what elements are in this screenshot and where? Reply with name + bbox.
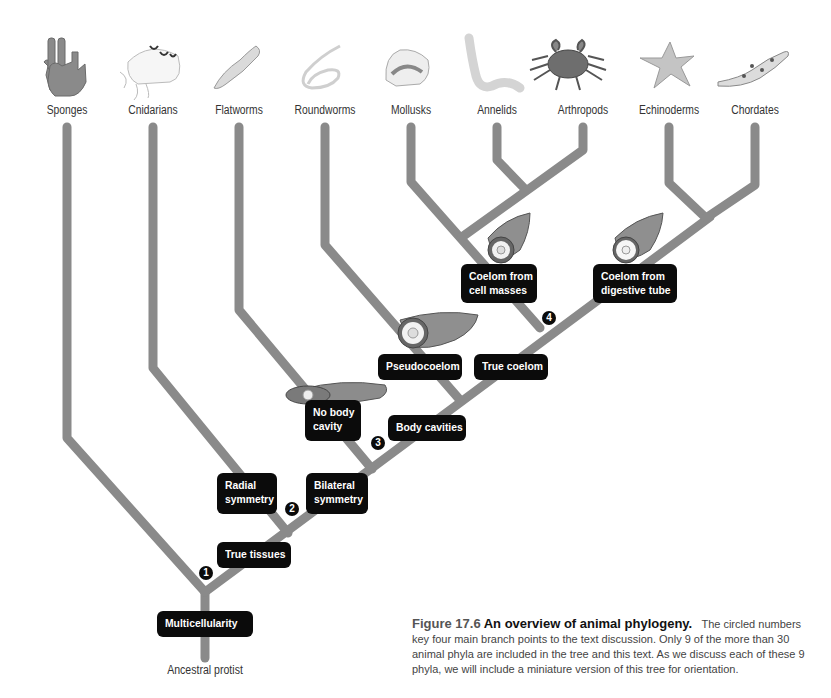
phylum-label-arthropods: Arthropods — [558, 103, 608, 117]
coelom-cell-masses-icon — [488, 213, 530, 263]
trait-pseudocoelom: Pseudocoelom — [378, 354, 462, 380]
phylum-label-chordates: Chordates — [731, 103, 779, 117]
jellyfish-icon — [120, 46, 180, 100]
root-label: Ancestral protist — [167, 663, 243, 677]
sponges-branch — [67, 127, 205, 592]
trait-text-line: Coelom from — [469, 269, 533, 283]
trait-true-tissues: True tissues — [217, 542, 291, 568]
trait-no-body-cavity: No body cavity — [305, 400, 361, 441]
tree-branches — [67, 127, 755, 658]
trait-text: True coelom — [482, 359, 543, 373]
trait-text-line: No body — [313, 405, 354, 419]
trait-text-line: cell masses — [469, 283, 527, 297]
phylum-label-annelids: Annelids — [477, 103, 517, 117]
phylum-label-mollusks: Mollusks — [391, 103, 431, 117]
phylum-label-roundworms: Roundworms — [295, 103, 356, 117]
pseudocoelom-icon — [398, 312, 478, 348]
trait-text-line: Radial — [225, 478, 256, 492]
chordates-branch — [706, 127, 755, 218]
trait-text: Pseudocoelom — [386, 359, 460, 373]
phylum-label-sponges: Sponges — [47, 103, 88, 117]
trait-text: True tissues — [225, 547, 285, 561]
crab-icon — [530, 40, 606, 90]
shell-icon — [386, 50, 429, 86]
trait-text-line: Coelom from — [601, 269, 665, 283]
figure-title: An overview of animal phylogeny. — [484, 616, 693, 631]
trait-text: Multicellularity — [165, 616, 237, 630]
phylum-label-cnidarians: Cnidarians — [128, 103, 177, 117]
trait-text-line: symmetry — [314, 492, 363, 506]
figure-number: Figure 17.6 — [412, 616, 481, 631]
branch-point-1: 1 — [199, 566, 213, 580]
trait-body-cavities: Body cavities — [388, 415, 466, 441]
flatworm-icon — [214, 46, 260, 89]
trait-text: Body cavities — [396, 420, 463, 434]
starfish-icon — [640, 42, 694, 88]
phylum-label-flatworms: Flatworms — [215, 103, 263, 117]
segmented-worm-icon — [469, 38, 520, 88]
trait-bilateral-symmetry: Bilateral symmetry — [306, 473, 368, 514]
trait-true-coelom: True coelom — [474, 354, 548, 380]
trait-text-line: cavity — [313, 419, 342, 433]
branch-point-3: 3 — [371, 436, 385, 450]
sponge-icon — [44, 38, 86, 96]
branch-point-2: 2 — [285, 502, 299, 516]
trait-coelom-digestive-tube: Coelom from digestive tube — [593, 264, 677, 303]
trait-radial-symmetry: Radial symmetry — [217, 473, 277, 514]
salamander-icon — [718, 52, 789, 87]
roundworm-icon — [303, 46, 340, 88]
trait-coelom-cell-masses: Coelom from cell masses — [461, 264, 537, 303]
annelids-branch — [497, 127, 524, 188]
figure-caption: Figure 17.6 An overview of animal phylog… — [412, 616, 820, 677]
trait-text-line: digestive tube — [601, 283, 671, 297]
phylum-label-echinoderms: Echinoderms — [639, 103, 699, 117]
trait-text-line: symmetry — [225, 492, 274, 506]
echinoderms-branch — [669, 127, 706, 218]
trait-text-line: Bilateral — [314, 478, 355, 492]
trait-multicellularity: Multicellularity — [157, 611, 253, 637]
branch-point-4: 4 — [542, 311, 556, 325]
